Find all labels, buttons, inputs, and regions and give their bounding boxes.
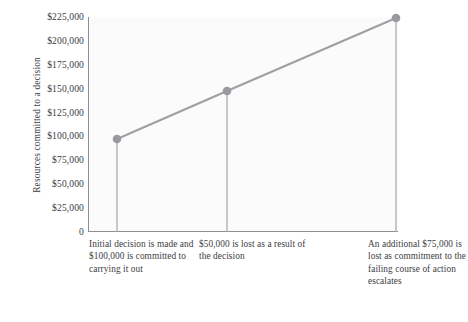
y-tick-label: $150,000 — [0, 84, 84, 94]
y-tick-label: $50,000 — [0, 179, 84, 189]
x-axis-label-stage-1: Initial decision is made and $100,000 is… — [89, 238, 199, 275]
escalation-of-commitment-chart: Resources committed to a decision $225,0… — [0, 0, 468, 322]
x-axis-label-stage-2: $50,000 is lost as a result of the decis… — [199, 238, 314, 263]
y-tick-label: $200,000 — [0, 36, 84, 46]
y-tick-label: $100,000 — [0, 131, 84, 141]
y-tick-label: $75,000 — [0, 155, 84, 165]
plot-area — [88, 17, 398, 232]
y-tick-label: 0 — [0, 227, 84, 237]
y-tick-label: $125,000 — [0, 108, 84, 118]
y-tick-label: $25,000 — [0, 203, 84, 213]
y-tick-label: $175,000 — [0, 60, 84, 70]
x-axis-label-stage-3: An additional $75,000 is lost as commitm… — [368, 238, 468, 288]
y-axis-tick-labels: $225,000 $200,000 $175,000 $150,000 $125… — [0, 0, 84, 322]
y-tick-label: $225,000 — [0, 12, 84, 22]
